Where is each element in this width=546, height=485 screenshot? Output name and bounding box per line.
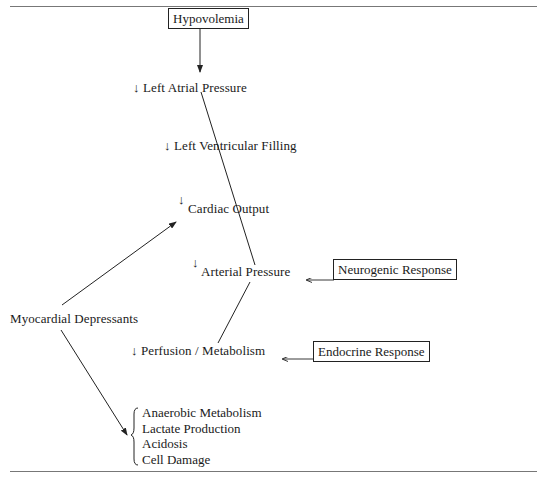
connector-lines [0,0,546,485]
hypovolemia-box: Hypovolemia [168,8,249,29]
arterial-pressure-arrow: ↓ [192,255,199,270]
arterial-pressure-label: Arterial Pressure [201,264,290,279]
left-ventricular-filling-label: Left Ventricular Filling [174,138,297,153]
perfusion-metabolism-node: ↓ Perfusion / Metabolism [131,343,265,358]
perfusion-metabolism-label: Perfusion / Metabolism [141,343,265,358]
myocardial-depressants-node: Myocardial Depressants [10,311,138,326]
decrease-arrow-icon: ↓ [131,343,138,358]
outcome-item: Acidosis [142,436,262,452]
brace [131,408,138,465]
cardiac-output-node: Cardiac Output [188,201,269,216]
outcome-item: Cell Damage [142,452,262,468]
line-ap-to-perfusion [218,282,250,343]
cardiac-output-label: Cardiac Output [188,201,269,216]
decrease-arrow-icon: ↓ [192,255,199,270]
line-lap-to-ap [201,92,255,265]
decrease-arrow-icon: ↓ [164,138,171,153]
myocardial-depressants-label: Myocardial Depressants [10,311,138,326]
decrease-arrow-icon: ↓ [178,192,185,207]
decrease-arrow-icon: ↓ [133,80,140,95]
arrow-myocardial-to-outcomes [61,330,127,435]
outcomes-list: Anaerobic Metabolism Lactate Production … [142,405,262,467]
arrow-myocardial-to-co [62,222,176,305]
neurogenic-response-box: Neurogenic Response [333,259,457,280]
endocrine-response-box: Endocrine Response [313,341,430,362]
neurogenic-response-label: Neurogenic Response [338,262,452,277]
left-ventricular-filling-node: ↓ Left Ventricular Filling [164,138,297,153]
cardiac-output-arrow: ↓ [178,192,185,207]
left-atrial-pressure-node: ↓ Left Atrial Pressure [133,80,247,95]
arterial-pressure-node: Arterial Pressure [201,264,290,279]
hypovolemia-label: Hypovolemia [173,11,244,26]
endocrine-response-label: Endocrine Response [318,344,425,359]
outcome-item: Anaerobic Metabolism [142,405,262,421]
outcome-item: Lactate Production [142,421,262,437]
left-atrial-pressure-label: Left Atrial Pressure [143,80,247,95]
